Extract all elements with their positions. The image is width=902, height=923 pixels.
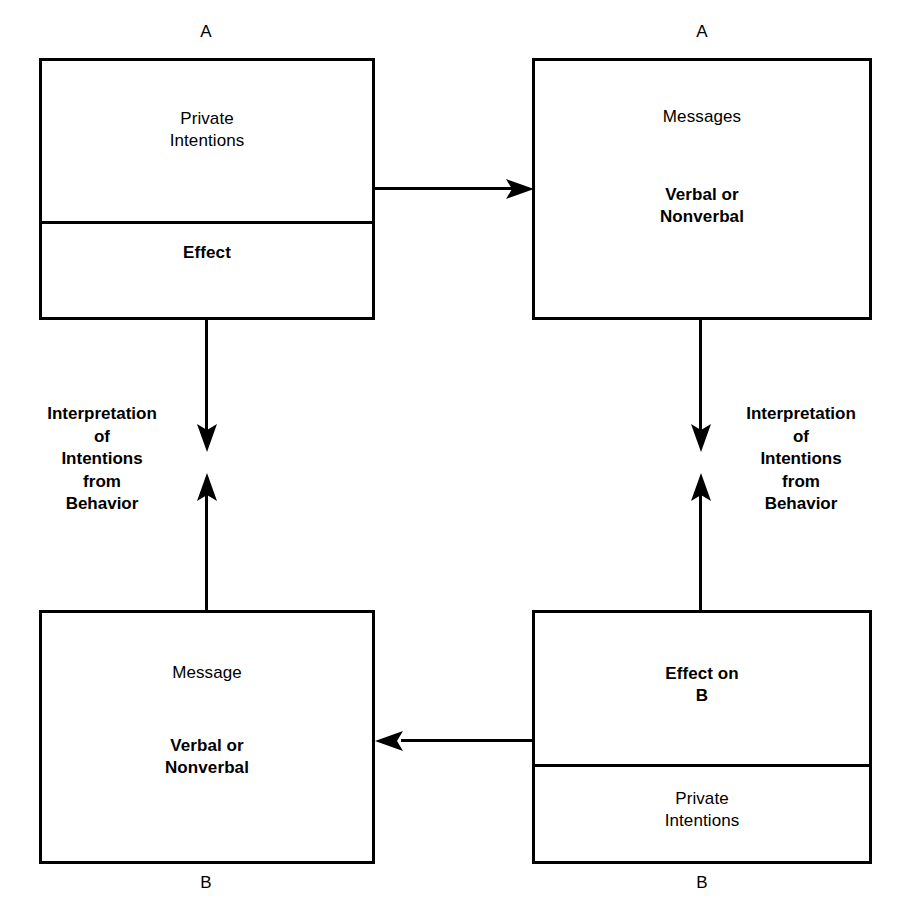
box-a-intentions-divider [39, 221, 375, 224]
arrow-top-right-down-line [699, 320, 702, 430]
box-a-intentions-top-label: A [176, 22, 236, 42]
arrow-bottom-left-up-head [195, 473, 219, 501]
arrow-top-left-down-head [195, 424, 219, 452]
box-a-messages-lower-text: Verbal or Nonverbal [532, 184, 872, 228]
box-a-intentions-lower-text: Effect [39, 242, 375, 264]
arrow-top-left-to-top-right-line [374, 187, 516, 190]
box-b-effect-upper-text: Effect on B [532, 663, 872, 707]
arrow-bottom-right-to-bottom-left-line [401, 739, 534, 742]
box-a-messages-upper-text: Messages [532, 106, 872, 128]
arrow-top-left-down-line [205, 320, 208, 430]
box-b-effect-bottom-label: B [672, 873, 732, 893]
box-b-message-lower-text: Verbal or Nonverbal [39, 735, 375, 779]
box-b-message-upper-text: Message [39, 662, 375, 684]
box-b-effect-divider [532, 764, 872, 767]
box-b-effect-lower-text: Private Intentions [532, 788, 872, 832]
left-interpretation-label: Interpretation of Intentions from Behavi… [22, 403, 182, 516]
arrow-bottom-right-up-line [699, 495, 702, 610]
box-a-intentions-upper-text: Private Intentions [39, 108, 375, 152]
arrow-top-left-to-top-right-head [506, 177, 534, 201]
arrow-bottom-right-to-bottom-left-head [375, 729, 403, 753]
arrow-bottom-right-up-head [689, 473, 713, 501]
box-b-message-bottom-label: B [176, 873, 236, 893]
arrow-bottom-left-up-line [205, 495, 208, 610]
arrow-top-right-down-head [689, 424, 713, 452]
right-interpretation-label: Interpretation of Intentions from Behavi… [716, 403, 886, 516]
box-a-messages-top-label: A [672, 22, 732, 42]
box-a-intentions [39, 58, 375, 320]
diagram-canvas: A Private Intentions Effect A Messages V… [0, 0, 902, 923]
